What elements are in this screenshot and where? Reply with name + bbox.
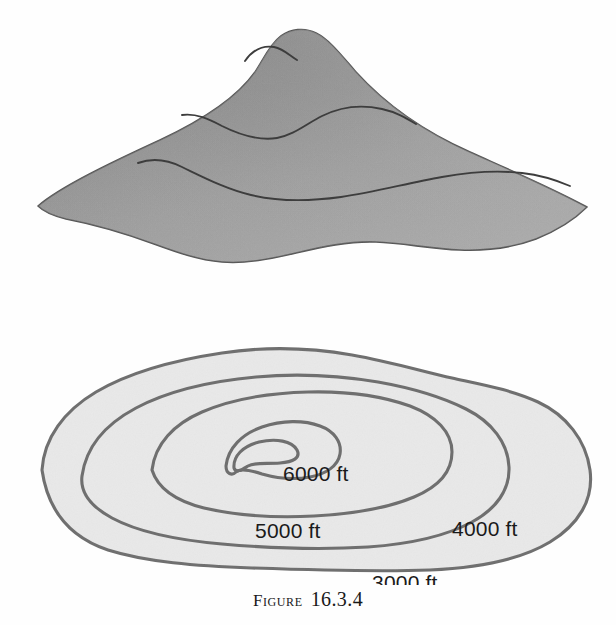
contour-map-view: 6000 ft 5000 ft 4000 ft 3000 ft [0,330,616,585]
contour-label-6000: 6000 ft [283,462,349,485]
mountain-3d-view [0,0,616,330]
contour-label-3000: 3000 ft [372,571,438,585]
contour-label-4000: 4000 ft [452,517,518,540]
contour-map-svg: 6000 ft 5000 ft 4000 ft 3000 ft [0,330,616,585]
figure-16-3-4: 6000 ft 5000 ft 4000 ft 3000 ft Figure16… [0,0,616,625]
figure-caption: Figure16.3.4 [0,588,616,611]
figure-caption-number: 16.3.4 [311,588,363,610]
right-shadow [0,0,616,330]
figure-caption-word: Figure [253,591,303,610]
contour-label-5000: 5000 ft [255,519,321,542]
mountain-svg [0,0,616,330]
mountain-shading [0,0,616,330]
mountain-body [0,0,616,330]
